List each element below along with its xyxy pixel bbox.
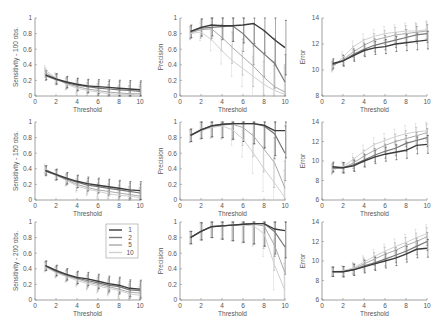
y-tick-label: 6 <box>315 296 319 303</box>
x-tick-label: 0 <box>33 202 37 209</box>
chart-prec-150: 024681000.20.40.60.81ThresholdPrecision <box>157 118 289 217</box>
legend-label: 10 <box>126 249 134 256</box>
y-tick-label: 0.8 <box>23 234 32 241</box>
y-tick-label: 0.8 <box>23 30 32 37</box>
x-tick-label: 4 <box>75 202 79 209</box>
legend-label: 1 <box>128 226 132 233</box>
y-tick-label: 0.4 <box>23 61 32 68</box>
series-line-5 <box>46 170 141 196</box>
series-line-2 <box>333 34 428 65</box>
x-tick-label: 4 <box>75 98 79 105</box>
y-tick-label: 8 <box>315 277 319 284</box>
y-axis-label: Error <box>299 153 306 168</box>
series-line-1 <box>191 24 286 48</box>
x-axis-label: Threshold <box>218 310 247 317</box>
x-tick-label: 8 <box>404 202 408 209</box>
x-tick-label: 6 <box>96 202 100 209</box>
x-tick-label: 8 <box>404 98 408 105</box>
x-tick-label: 6 <box>96 98 100 105</box>
x-tick-label: 10 <box>423 302 431 309</box>
series-line-1 <box>46 266 141 289</box>
x-tick-label: 4 <box>75 302 79 309</box>
x-tick-label: 2 <box>54 98 58 105</box>
y-axis-label: Precision <box>157 147 164 174</box>
x-tick-label: 0 <box>33 302 37 309</box>
chart-sens-150: 024681000.20.40.60.81ThresholdSensitivit… <box>12 118 144 217</box>
x-tick-label: 6 <box>383 98 387 105</box>
x-tick-label: 0 <box>178 202 182 209</box>
x-tick-label: 8 <box>404 302 408 309</box>
x-tick-label: 2 <box>341 302 345 309</box>
y-tick-label: 0.4 <box>23 265 32 272</box>
x-tick-label: 8 <box>262 98 266 105</box>
series-line-1 <box>333 248 428 271</box>
series-line-10 <box>191 32 286 94</box>
y-tick-label: 0.6 <box>23 250 32 257</box>
y-tick-label: 0.8 <box>168 134 177 141</box>
x-tick-label: 10 <box>423 98 431 105</box>
y-tick-label: 0 <box>173 92 177 99</box>
y-tick-label: 0.6 <box>168 250 177 257</box>
x-tick-label: 2 <box>199 302 203 309</box>
y-tick-label: 1 <box>28 218 32 225</box>
x-tick-label: 10 <box>281 202 289 209</box>
x-tick-label: 8 <box>262 302 266 309</box>
x-axis-label: Threshold <box>218 210 247 217</box>
series-line-10 <box>46 169 141 198</box>
x-axis-label: Threshold <box>73 210 102 217</box>
y-axis-label: Precision <box>157 43 164 70</box>
y-tick-label: 8 <box>315 92 319 99</box>
series-line-10 <box>333 234 428 272</box>
y-tick-label: 6 <box>315 196 319 203</box>
y-tick-label: 12 <box>312 138 320 145</box>
y-tick-label: 0.2 <box>168 181 177 188</box>
series-line-5 <box>191 224 286 272</box>
y-tick-label: 0.2 <box>23 281 32 288</box>
x-tick-label: 0 <box>178 98 182 105</box>
y-tick-label: 8 <box>315 177 319 184</box>
y-tick-label: 0 <box>28 196 32 203</box>
y-tick-label: 1 <box>173 218 177 225</box>
x-tick-label: 6 <box>241 202 245 209</box>
y-tick-label: 1 <box>28 118 32 125</box>
y-tick-label: 0.6 <box>168 46 177 53</box>
x-tick-label: 8 <box>262 202 266 209</box>
series-line-1 <box>191 224 286 238</box>
x-tick-label: 4 <box>362 98 366 105</box>
y-tick-label: 0.2 <box>23 77 32 84</box>
y-tick-label: 0.4 <box>168 165 177 172</box>
x-axis-label: Threshold <box>218 106 247 113</box>
series-line-1 <box>46 170 141 190</box>
y-tick-label: 0.4 <box>23 165 32 172</box>
series-line-10 <box>46 70 141 95</box>
x-tick-label: 4 <box>220 302 224 309</box>
chart-prec-100: 024681000.20.40.60.81ThresholdPrecision <box>157 14 289 113</box>
x-axis-label: Threshold <box>73 310 102 317</box>
x-tick-label: 2 <box>54 302 58 309</box>
x-tick-label: 6 <box>96 302 100 309</box>
x-tick-label: 4 <box>362 302 366 309</box>
x-tick-label: 10 <box>136 302 144 309</box>
x-tick-label: 4 <box>220 98 224 105</box>
x-tick-label: 10 <box>423 202 431 209</box>
y-tick-label: 0.2 <box>168 77 177 84</box>
series-line-10 <box>191 126 286 198</box>
x-tick-label: 0 <box>320 302 324 309</box>
x-tick-label: 6 <box>241 98 245 105</box>
y-axis-label: Precision <box>157 247 164 274</box>
x-tick-label: 10 <box>281 302 289 309</box>
y-tick-label: 1 <box>173 118 177 125</box>
y-axis-label: Error <box>299 49 306 64</box>
x-axis-label: Threshold <box>360 210 389 217</box>
y-axis-label: Sensitivity - 200 obs. <box>12 231 20 291</box>
x-tick-label: 0 <box>320 98 324 105</box>
x-tick-label: 0 <box>178 302 182 309</box>
y-tick-label: 10 <box>312 66 320 73</box>
y-tick-label: 0 <box>28 296 32 303</box>
legend-label: 2 <box>128 234 132 241</box>
x-tick-label: 0 <box>33 98 37 105</box>
x-tick-label: 2 <box>341 98 345 105</box>
x-axis-label: Threshold <box>360 106 389 113</box>
x-tick-label: 8 <box>117 302 121 309</box>
y-tick-label: 14 <box>312 218 320 225</box>
